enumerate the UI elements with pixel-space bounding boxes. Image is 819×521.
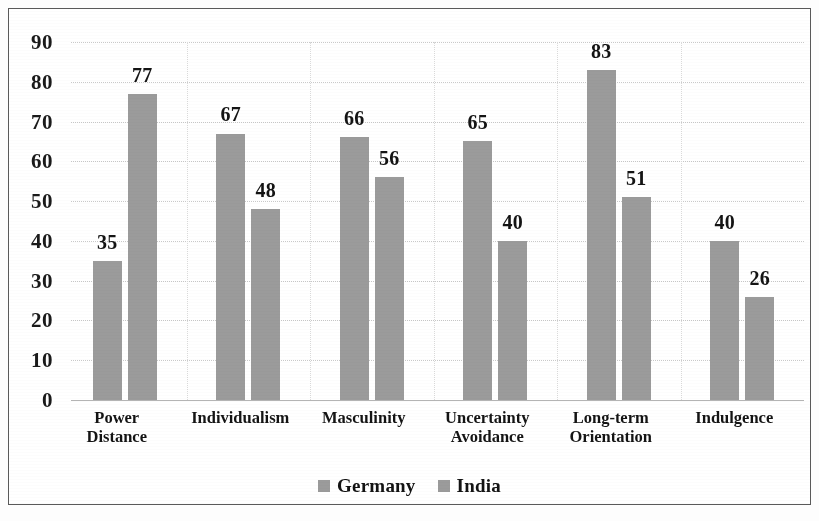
category-separator-4	[557, 42, 558, 400]
legend-label-india: India	[457, 475, 501, 497]
x-axis-label-2: Masculinity	[322, 408, 405, 427]
bar-india-5[interactable]	[745, 297, 774, 400]
gridline-70	[71, 122, 804, 123]
bar-value-label-germany-3: 65	[467, 111, 488, 134]
legend-label-germany: Germany	[337, 475, 415, 497]
bar-value-label-germany-1: 67	[220, 103, 241, 126]
gridline-80	[71, 82, 804, 83]
bar-value-label-india-4: 51	[626, 167, 647, 190]
x-axis-label-0: Power Distance	[87, 408, 148, 446]
x-axis-label-1: Individualism	[191, 408, 289, 427]
bar-india-1[interactable]	[251, 209, 280, 400]
bar-value-label-india-2: 56	[379, 147, 400, 170]
bar-germany-5[interactable]	[710, 241, 739, 400]
y-axis-tick-label-70: 70	[31, 109, 53, 134]
gridline-60	[71, 161, 804, 162]
bar-value-label-india-3: 40	[502, 211, 523, 234]
bar-germany-3[interactable]	[463, 141, 492, 400]
gridline-50	[71, 201, 804, 202]
bar-value-label-india-0: 77	[132, 64, 153, 87]
y-axis-tick-label-10: 10	[31, 348, 53, 373]
bar-germany-1[interactable]	[216, 134, 245, 401]
y-axis-tick-label-50: 50	[31, 189, 53, 214]
bar-india-0[interactable]	[128, 94, 157, 400]
y-axis-tick-label-30: 30	[31, 268, 53, 293]
bar-india-4[interactable]	[622, 197, 651, 400]
category-separator-2	[310, 42, 311, 400]
bar-germany-2[interactable]	[340, 137, 369, 400]
y-axis-tick-label-80: 80	[31, 69, 53, 94]
legend-swatch-icon-india	[438, 480, 450, 492]
y-axis-tick-label-90: 90	[31, 30, 53, 55]
legend-item-india[interactable]: India	[438, 475, 501, 497]
bar-india-3[interactable]	[498, 241, 527, 400]
bar-india-2[interactable]	[375, 177, 404, 400]
gridline-40	[71, 241, 804, 242]
bar-value-label-germany-4: 83	[591, 40, 612, 63]
gridline-90	[71, 42, 804, 43]
bar-value-label-germany-2: 66	[344, 107, 365, 130]
plot-area: 0102030405060708090 35776748665665408351…	[63, 34, 804, 400]
y-axis-tick-label-40: 40	[31, 228, 53, 253]
bar-germany-4[interactable]	[587, 70, 616, 400]
gridline-20	[71, 320, 804, 321]
bar-germany-0[interactable]	[93, 261, 122, 400]
chart-frame: 0102030405060708090 35776748665665408351…	[8, 8, 811, 505]
gridline-30	[71, 281, 804, 282]
legend-item-germany[interactable]: Germany	[318, 475, 415, 497]
x-axis-label-3: Uncertainty Avoidance	[445, 408, 529, 446]
bar-value-label-germany-0: 35	[97, 231, 118, 254]
x-axis-label-5: Indulgence	[695, 408, 773, 427]
y-axis-tick-label-60: 60	[31, 149, 53, 174]
gridline-10	[71, 360, 804, 361]
bar-value-label-india-1: 48	[255, 179, 276, 202]
chart-legend: GermanyIndia	[9, 475, 810, 497]
figure-container: 0102030405060708090 35776748665665408351…	[0, 0, 819, 521]
y-axis-tick-label-0: 0	[42, 388, 53, 413]
y-axis-tick-label-20: 20	[31, 308, 53, 333]
category-separator-3	[434, 42, 435, 400]
bar-value-label-india-5: 26	[749, 267, 770, 290]
x-axis-label-4: Long-term Orientation	[570, 408, 653, 446]
category-separator-1	[187, 42, 188, 400]
legend-swatch-icon-germany	[318, 480, 330, 492]
bar-value-label-germany-5: 40	[714, 211, 735, 234]
gridline-0	[71, 400, 804, 401]
category-separator-5	[681, 42, 682, 400]
